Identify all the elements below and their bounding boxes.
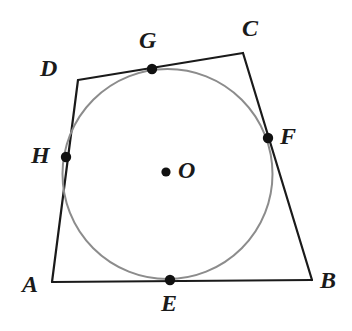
vertex-label-b: B: [320, 268, 336, 292]
geometry-figure: EFGHOABCD: [0, 0, 352, 331]
tangent-point-f: [263, 133, 273, 143]
tangent-label-h: H: [31, 143, 50, 167]
tangent-label-e: E: [161, 291, 177, 315]
polygon-edge-cd: [78, 53, 243, 80]
center-point-o: [161, 167, 170, 176]
tangent-label-f: F: [280, 124, 296, 148]
tangent-point-g: [147, 64, 157, 74]
center-label-o: O: [178, 158, 195, 182]
labeled-points-group: [61, 64, 273, 285]
tangent-label-g: G: [139, 28, 156, 52]
polygon-edge-ab: [52, 280, 312, 282]
vertex-label-d: D: [40, 56, 57, 80]
vertex-label-a: A: [22, 272, 38, 296]
polygon-edge-da: [52, 80, 78, 282]
tangent-point-h: [61, 152, 71, 162]
polygon-edge-bc: [243, 53, 312, 280]
tangent-point-e: [165, 275, 175, 285]
vertex-label-c: C: [242, 16, 258, 40]
figure-canvas: [0, 0, 352, 331]
